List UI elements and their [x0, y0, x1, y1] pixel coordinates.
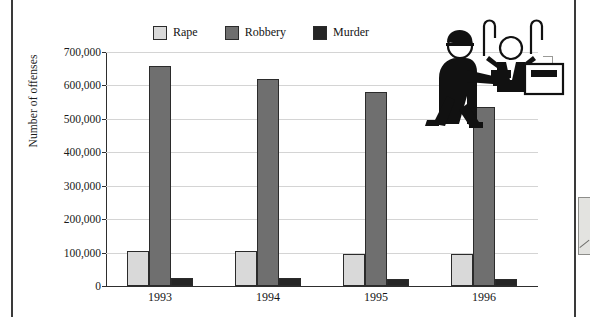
margin-tab-fragment [578, 197, 590, 255]
x-tick-label-1993: 1993 [148, 290, 172, 305]
page-rule-right [574, 0, 576, 317]
legend-label-rape: Rape [173, 25, 198, 40]
x-tick-label-1995: 1995 [364, 290, 388, 305]
y-tick-mark [102, 119, 106, 120]
bar-murder-1996 [495, 279, 517, 286]
y-tick-mark [102, 186, 106, 187]
legend-item-robbery: Robbery [225, 25, 286, 40]
y-axis-line [106, 52, 107, 286]
y-tick-label: 300,000 [64, 180, 101, 192]
legend-item-murder: Murder [313, 25, 369, 40]
legend-label-robbery: Robbery [245, 25, 286, 40]
x-tick-label-1994: 1994 [256, 290, 280, 305]
bar-robbery-1993 [149, 66, 171, 286]
x-axis-line [106, 286, 538, 287]
legend-swatch-icon [225, 26, 239, 40]
y-tick-mark [102, 253, 106, 254]
y-axis-title: Number of offenses [27, 21, 39, 181]
y-tick-mark [102, 52, 106, 53]
plot-area: 700,000600,000500,000400,000300,000200,0… [106, 52, 538, 286]
y-tick-label: 0 [95, 280, 101, 292]
bar-robbery-1996 [473, 107, 495, 287]
y-tick-label: 500,000 [64, 113, 101, 125]
y-tick-label: 100,000 [64, 247, 101, 259]
bar-murder-1994 [279, 278, 301, 286]
bar-robbery-1995 [365, 92, 387, 286]
bar-rape-1994 [235, 251, 257, 286]
y-tick-mark [102, 286, 106, 287]
bar-murder-1993 [171, 278, 193, 286]
bar-rape-1995 [343, 254, 365, 286]
legend-swatch-icon [153, 26, 167, 40]
x-tick-label-1996: 1996 [472, 290, 496, 305]
legend-swatch-icon [313, 26, 327, 40]
bar-robbery-1994 [257, 79, 279, 286]
y-tick-label: 600,000 [64, 79, 101, 91]
gridline [106, 52, 538, 53]
y-tick-mark [102, 219, 106, 220]
bar-rape-1996 [451, 254, 473, 286]
bar-rape-1993 [127, 251, 149, 286]
y-tick-label: 400,000 [64, 146, 101, 158]
bar-murder-1995 [387, 279, 409, 286]
y-tick-mark [102, 152, 106, 153]
legend-item-rape: Rape [153, 25, 198, 40]
bar-chart: Number of offenses Rape Robbery Murder 7… [13, 0, 574, 317]
chart-legend: Rape Robbery Murder [153, 25, 369, 40]
y-tick-mark [102, 85, 106, 86]
legend-label-murder: Murder [333, 25, 369, 40]
y-tick-label: 200,000 [64, 213, 101, 225]
y-tick-label: 700,000 [64, 46, 101, 58]
